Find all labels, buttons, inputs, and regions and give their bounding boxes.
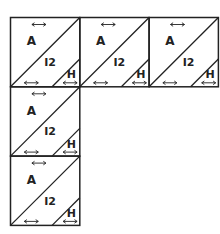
piece-label-a: A bbox=[96, 34, 106, 48]
grain-arrow-icon bbox=[101, 23, 115, 27]
grain-arrow-icon bbox=[171, 23, 185, 27]
grain-arrow-icon bbox=[202, 81, 216, 85]
grain-arrow-icon bbox=[63, 81, 77, 85]
quilt-block: AI2H bbox=[80, 18, 149, 87]
quilt-block: AI2H bbox=[149, 18, 218, 87]
piece-label-a: A bbox=[27, 173, 37, 187]
grain-arrow-icon bbox=[63, 220, 77, 224]
piece-label-i2: I2 bbox=[44, 195, 56, 208]
piece-label-a: A bbox=[165, 34, 175, 48]
piece-label-h: H bbox=[136, 68, 145, 81]
grain-arrow-icon bbox=[63, 150, 77, 154]
piece-label-i2: I2 bbox=[183, 56, 195, 69]
piece-label-i2: I2 bbox=[44, 125, 56, 138]
grain-arrow-icon bbox=[24, 150, 38, 154]
quilt-block: AI2H bbox=[11, 18, 80, 87]
grain-arrow-icon bbox=[132, 81, 146, 85]
quilt-block: AI2H bbox=[11, 156, 80, 225]
quilt-block: AI2H bbox=[11, 87, 80, 156]
piece-label-h: H bbox=[67, 68, 76, 81]
grain-arrow-icon bbox=[24, 81, 38, 85]
grain-arrow-icon bbox=[94, 81, 108, 85]
piece-label-a: A bbox=[27, 104, 37, 118]
piece-label-h: H bbox=[67, 207, 76, 220]
grain-arrow-icon bbox=[32, 92, 46, 96]
piece-label-h: H bbox=[205, 68, 214, 81]
piece-label-i2: I2 bbox=[113, 56, 125, 69]
grain-arrow-icon bbox=[32, 161, 46, 165]
grain-arrow-icon bbox=[24, 220, 38, 224]
piece-label-a: A bbox=[27, 34, 37, 48]
grain-arrow-icon bbox=[32, 23, 46, 27]
grain-arrow-icon bbox=[163, 81, 177, 85]
quilt-diagram: AI2HAI2HAI2HAI2HAI2H bbox=[0, 0, 220, 234]
piece-label-h: H bbox=[67, 138, 76, 151]
piece-label-i2: I2 bbox=[44, 56, 56, 69]
